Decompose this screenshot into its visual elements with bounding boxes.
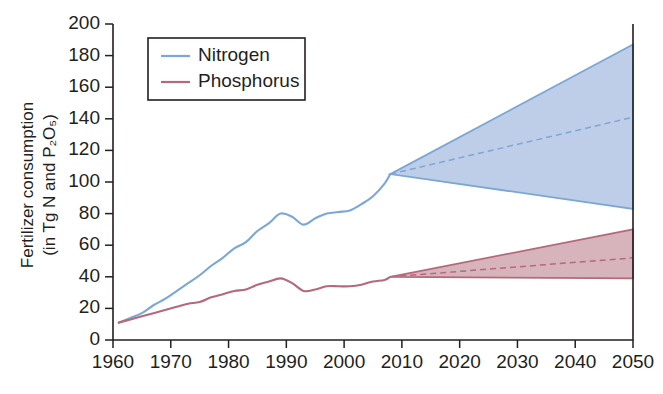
x-tick-label: 1980 bbox=[207, 351, 249, 372]
y-tick-label: 140 bbox=[68, 107, 100, 128]
y-tick-label: 100 bbox=[68, 170, 100, 191]
x-tick-label: 1990 bbox=[265, 351, 307, 372]
chart-legend: NitrogenPhosphorus bbox=[148, 38, 305, 100]
y-axis-title: Fertilizer consumption (in Tg N and P₂O₅… bbox=[18, 102, 59, 268]
x-tick-label: 2000 bbox=[323, 351, 365, 372]
phosphorus-historical-line bbox=[119, 277, 391, 323]
y-tick-label: 180 bbox=[68, 44, 100, 65]
y-tick-label: 160 bbox=[68, 75, 100, 96]
nitrogen-historical-line bbox=[119, 174, 391, 323]
y-tick-label: 60 bbox=[79, 233, 100, 254]
y-tick-label: 20 bbox=[79, 296, 100, 317]
phosphorus-projection-band bbox=[390, 229, 633, 278]
y-tick-label: 0 bbox=[89, 328, 100, 349]
y-tick-label: 120 bbox=[68, 138, 100, 159]
x-tick-label: 2010 bbox=[381, 351, 423, 372]
y-tick-label: 80 bbox=[79, 202, 100, 223]
fertilizer-consumption-chart: Fertilizer consumption (in Tg N and P₂O₅… bbox=[0, 0, 663, 394]
x-tick-label: 2030 bbox=[496, 351, 538, 372]
legend-label-phosphorus: Phosphorus bbox=[198, 70, 299, 91]
x-tick-label: 2020 bbox=[439, 351, 481, 372]
x-tick-label: 2050 bbox=[612, 351, 654, 372]
x-tick-label: 1970 bbox=[150, 351, 192, 372]
nitrogen-projection-band bbox=[390, 45, 633, 209]
y-axis-title-line2: (in Tg N and P₂O₅) bbox=[40, 114, 59, 256]
y-tick-label: 40 bbox=[79, 265, 100, 286]
x-tick-label: 2040 bbox=[554, 351, 596, 372]
chart-canvas: Fertilizer consumption (in Tg N and P₂O₅… bbox=[0, 0, 663, 394]
legend-label-nitrogen: Nitrogen bbox=[198, 44, 270, 65]
x-tick-label: 1960 bbox=[92, 351, 134, 372]
y-tick-label: 200 bbox=[68, 12, 100, 33]
y-axis-title-line1: Fertilizer consumption bbox=[18, 102, 37, 268]
